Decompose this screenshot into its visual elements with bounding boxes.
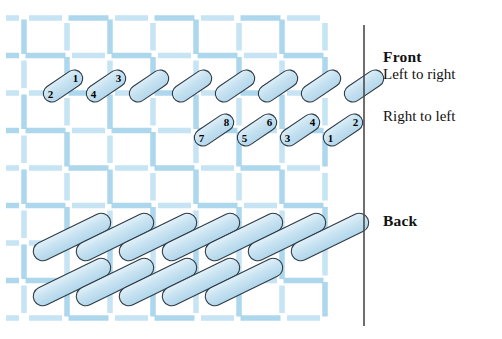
stitch-number: 8 (224, 116, 230, 128)
stitch-number: 4 (310, 116, 316, 128)
stitch-number: 4 (91, 88, 97, 100)
stitch-number: 7 (199, 132, 205, 144)
stitch-number: 3 (116, 72, 122, 84)
stitch-number: 2 (353, 116, 359, 128)
stitch-number: 3 (285, 132, 291, 144)
legend-front-title: Front (383, 48, 422, 66)
stitch-number: 1 (73, 72, 79, 84)
legend-back-title: Back (383, 212, 417, 230)
legend-right-to-left: Right to left (383, 108, 456, 125)
stitch-number: 2 (48, 88, 54, 100)
stitch-number: 5 (242, 132, 248, 144)
legend-left-to-right: Left to right (383, 66, 455, 83)
cross-stitch-diagram: 214378563412 Front Left to right Right t… (0, 0, 502, 339)
stitch-number: 6 (267, 116, 273, 128)
stitch-number: 1 (328, 132, 334, 144)
diagram-canvas: 214378563412 (0, 0, 502, 339)
